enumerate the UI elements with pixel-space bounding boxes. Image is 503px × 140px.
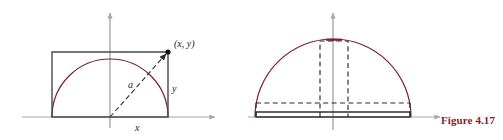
figure-4-17-container: (x, y) a x y Figure 4.17 — [0, 0, 503, 140]
left-vertical-label: y — [171, 83, 177, 94]
figure-illustration: (x, y) a x y — [0, 0, 503, 140]
figure-caption: Figure 4.17 — [441, 114, 495, 126]
left-point-label: (x, y) — [174, 38, 195, 50]
right-panel-group — [248, 13, 440, 130]
right-tall-narrow-rectangle — [320, 41, 348, 117]
left-radius-dashed-line — [110, 54, 166, 117]
left-horizontal-label: x — [134, 122, 140, 133]
left-radius-label: a — [128, 79, 133, 90]
left-panel-group: (x, y) a x y — [22, 13, 215, 133]
left-point-marker — [165, 49, 170, 54]
